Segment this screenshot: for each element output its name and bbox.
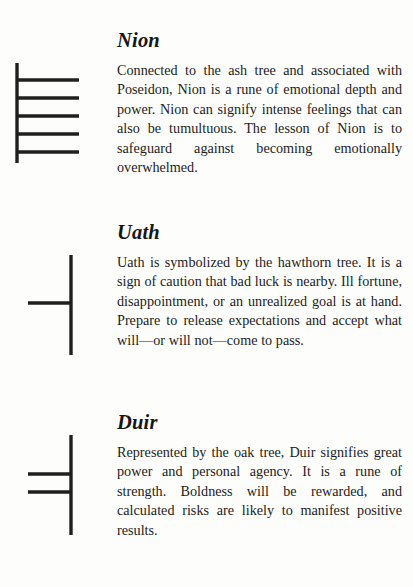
rune-body-duir: Represented by the oak tree, Duir signif… <box>117 443 402 541</box>
duir-ogham-rune <box>0 412 110 552</box>
rune-title-uath: Uath <box>117 222 402 244</box>
nion-ogham-rune <box>0 30 110 170</box>
uath-ogham-rune <box>0 222 110 362</box>
book-page: Nion Connected to the ash tree and assoc… <box>0 0 413 587</box>
rune-text-uath: Uath Uath is symbolized by the hawthorn … <box>117 222 402 350</box>
rune-text-duir: Duir Represented by the oak tree, Duir s… <box>117 412 402 540</box>
rune-title-nion: Nion <box>117 30 402 52</box>
rune-text-nion: Nion Connected to the ash tree and assoc… <box>117 30 402 178</box>
rune-body-uath: Uath is symbolized by the hawthorn tree.… <box>117 253 402 351</box>
rune-title-duir: Duir <box>117 412 402 434</box>
rune-body-nion: Connected to the ash tree and associated… <box>117 61 402 179</box>
